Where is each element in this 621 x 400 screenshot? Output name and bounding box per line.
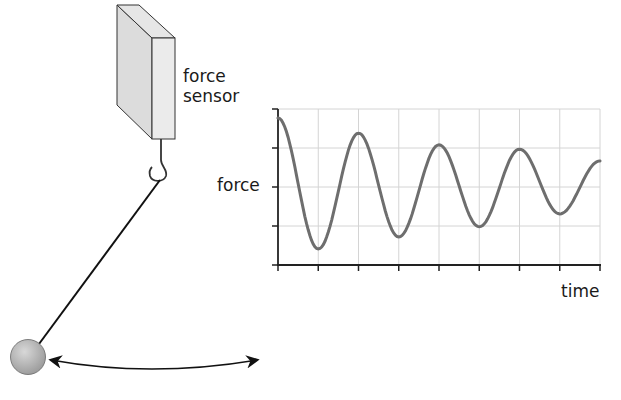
pendulum-string [39,180,160,344]
y-axis-label: force [217,175,260,195]
pendulum-force-diagram [0,0,621,400]
force-sensor [117,5,175,139]
pendulum-bob [11,340,46,375]
x-axis-label: time [561,281,599,301]
swing-arrow-icon [51,360,257,369]
sensor-front-face [152,38,175,139]
hook-icon [150,139,167,181]
sensor-label-line2: sensor [183,86,239,106]
force-sensor-label: force sensor [183,66,239,106]
sensor-label-line1: force [183,66,239,86]
force-time-chart [272,109,601,271]
